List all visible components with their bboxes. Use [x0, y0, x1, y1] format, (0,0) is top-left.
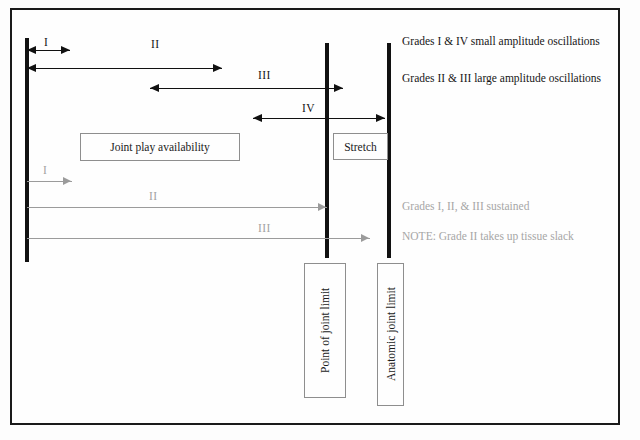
oscillation-arrow-label-III: III: [258, 69, 271, 81]
anatomic-joint-limit-box-text: Anatomic joint limit: [385, 288, 397, 382]
joint-play-availability-box-text: Joint play availability: [110, 141, 210, 153]
legend-large-amplitude: Grades II & III large amplitude oscillat…: [402, 72, 601, 84]
point-of-joint-limit-box: Point of joint limit: [304, 263, 346, 398]
diagram-page: IIIIIIIVIIIIIIJoint play availabilityStr…: [0, 0, 640, 440]
sustained-arrow-head-right-I: [63, 177, 71, 185]
stretch-box-text: Stretch: [344, 141, 377, 153]
oscillation-arrow-head-right-IV: [376, 114, 385, 122]
sustained-arrow-label-I: I: [43, 164, 47, 176]
oscillation-arrow-shaft-IV: [253, 118, 385, 119]
point-of-joint-limit-box-text: Point of joint limit: [319, 288, 331, 373]
legend-small-amplitude: Grades I & IV small amplitude oscillatio…: [402, 35, 600, 47]
oscillation-arrow-head-left-II: [27, 64, 36, 72]
sustained-arrow-shaft-II: [27, 207, 327, 208]
sustained-arrow-head-right-II: [318, 203, 326, 211]
oscillation-arrow-shaft-III: [150, 88, 343, 89]
oscillation-arrow-shaft-II: [27, 68, 222, 69]
oscillation-arrow-head-left-I: [27, 46, 36, 54]
legend-sustained: Grades I, II, & III sustained: [402, 200, 529, 212]
oscillation-arrow-head-left-IV: [253, 114, 262, 122]
oscillation-arrow-label-IV: IV: [302, 102, 315, 114]
oscillation-arrow-head-right-III: [334, 84, 343, 92]
oscillation-arrow-head-right-II: [213, 64, 222, 72]
point-of-joint-limit-line: [325, 43, 329, 258]
oscillation-arrow-label-II: II: [151, 38, 159, 50]
sustained-arrow-label-III: III: [258, 222, 271, 234]
oscillation-arrow-head-right-I: [61, 46, 70, 54]
oscillation-arrow-label-I: I: [44, 36, 48, 48]
sustained-arrow-label-II: II: [149, 190, 157, 202]
legend-note: NOTE: Grade II takes up tissue slack: [402, 230, 574, 242]
sustained-arrow-head-right-III: [361, 234, 369, 242]
joint-play-availability-box: Joint play availability: [80, 133, 240, 161]
stretch-box: Stretch: [333, 133, 388, 160]
oscillation-arrow-head-left-III: [150, 84, 159, 92]
sustained-arrow-shaft-III: [27, 238, 370, 239]
anatomic-joint-limit-box: Anatomic joint limit: [377, 263, 404, 406]
